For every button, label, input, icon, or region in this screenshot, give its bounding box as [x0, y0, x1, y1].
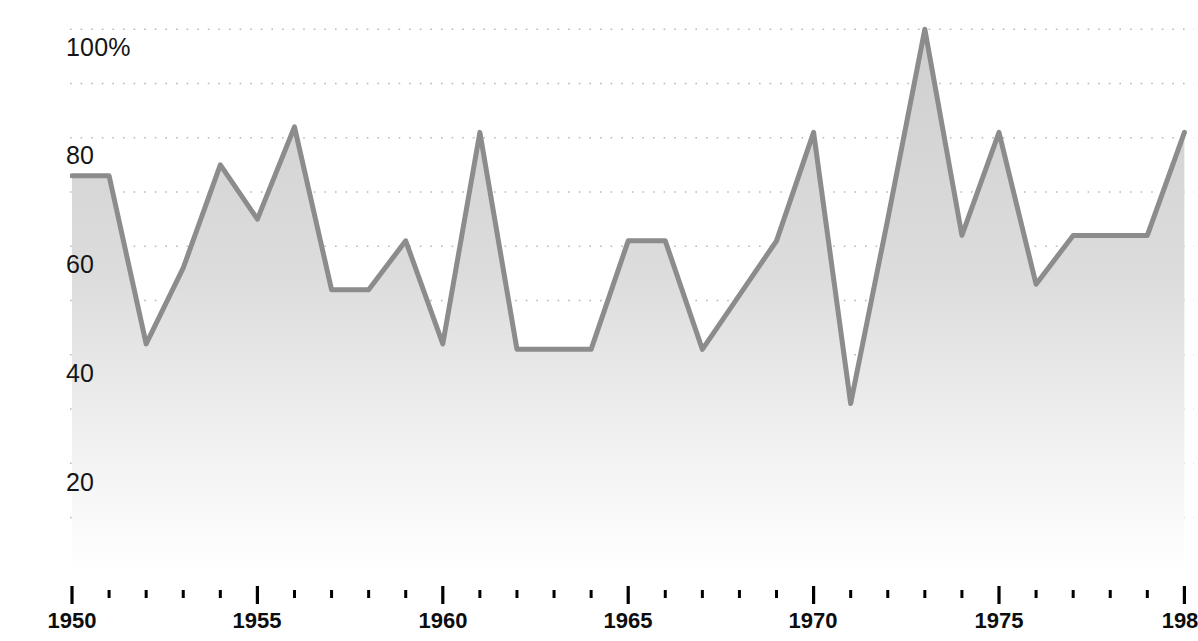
x-tick-label-1970: 1970	[789, 608, 838, 634]
area-fill-group	[72, 29, 1184, 571]
area-fill	[72, 29, 1184, 571]
x-tick-label-1955: 1955	[233, 608, 282, 634]
y-tick-label-40: 40	[66, 359, 94, 388]
x-tick-label-1950: 1950	[48, 608, 97, 634]
y-tick-label-60: 60	[66, 250, 94, 279]
x-tick-label-1975: 1975	[975, 608, 1024, 634]
y-tick-label-80: 80	[66, 141, 94, 170]
x-tick-marks-group	[72, 586, 1184, 604]
x-tick-label-1980: 198	[1162, 608, 1198, 634]
y-tick-label-20: 20	[66, 468, 94, 497]
x-tick-label-1960: 1960	[419, 608, 468, 634]
y-tick-label-100: 100%	[66, 33, 131, 62]
x-tick-label-1965: 1965	[604, 608, 653, 634]
